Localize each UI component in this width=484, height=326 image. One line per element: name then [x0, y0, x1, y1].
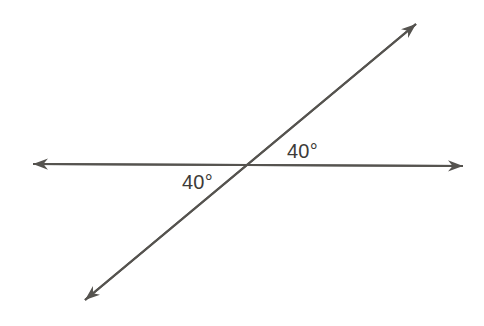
angle-label-lower-left: 40° — [182, 172, 213, 192]
geometry-svg — [0, 0, 484, 326]
angle-diagram-canvas: 40° 40° — [0, 0, 484, 326]
diagonal-line-upper-half — [85, 24, 416, 300]
diagonal-line-group — [85, 24, 416, 300]
angle-label-upper-right: 40° — [287, 141, 318, 161]
